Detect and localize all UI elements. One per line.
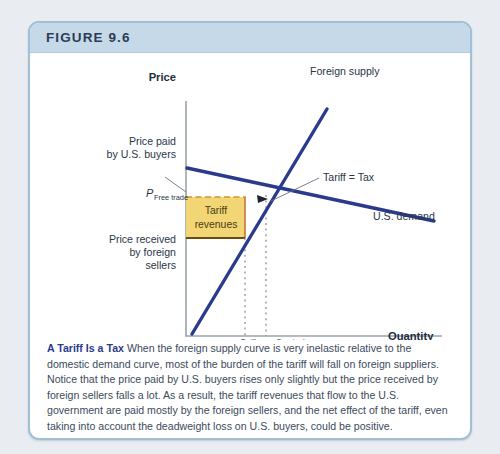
price-received-label-line1: Price received <box>109 233 176 245</box>
price-received-label-line3: sellers <box>145 259 176 271</box>
p-free-trade-symbol: P <box>146 187 154 199</box>
price-paid-leader-line <box>165 177 186 192</box>
caption-lead-in: A Tariff Is a Tax <box>47 342 124 354</box>
us-demand-label: U.S. demand <box>373 210 435 222</box>
foreign-supply-label: Foreign supply <box>310 65 380 77</box>
tariff-revenues-rect <box>186 197 245 238</box>
q-d-tariff-superscript: Tariff <box>241 338 256 340</box>
tariff-tax-label: Tariff = Tax <box>323 171 375 183</box>
chart-plot-area: Price Quantity Foreign supply U.S. deman… <box>30 53 470 340</box>
y-axis-title: Price <box>149 71 176 83</box>
p-free-trade-subscript: Free trade <box>154 193 188 202</box>
tariff-supply-demand-chart: Price Quantity Foreign supply U.S. deman… <box>30 53 472 340</box>
price-paid-label-line1: Price paid <box>129 135 176 147</box>
figure-card: FIGURE 9.6 Price <box>28 21 472 440</box>
caption-body-text: When the foreign supply curve is very in… <box>47 342 448 432</box>
price-paid-label-line2: by U.S. buyers <box>107 148 176 160</box>
q-d-free-trade-superscript: Free trade <box>277 338 309 340</box>
figure-header: FIGURE 9.6 <box>30 23 470 53</box>
tariff-revenues-label-line1: Tariff <box>205 205 227 216</box>
figure-caption: A Tariff Is a Tax When the foreign suppl… <box>30 341 472 435</box>
price-received-label-line2: by foreign <box>129 246 176 258</box>
x-axis-title: Quantity <box>388 330 434 340</box>
tariff-revenues-label-line2: revenues <box>195 219 238 230</box>
figure-number-label: FIGURE 9.6 <box>46 30 131 45</box>
